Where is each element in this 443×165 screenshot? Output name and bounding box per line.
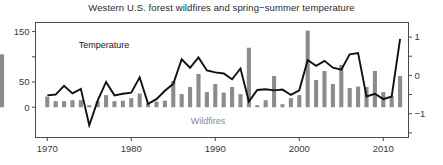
x-tick-label: 1970 <box>37 143 58 154</box>
y-right-tick-label: 1 <box>415 31 420 42</box>
wildfire-bar <box>213 84 217 107</box>
x-tick-label: 2010 <box>373 143 394 154</box>
x-axis: 19701980199020002010 <box>37 138 394 154</box>
wildfire-bar <box>45 97 49 108</box>
wildfire-bar <box>398 76 402 107</box>
plot-area: 050150 −101 19701980199020002010 Tempera… <box>0 0 443 165</box>
y-right-tick-label: −1 <box>415 108 426 119</box>
wildfire-bar <box>180 94 184 107</box>
wildfire-bar <box>196 74 200 107</box>
wildfire-bar <box>297 95 301 107</box>
wildfire-bar <box>138 94 142 108</box>
wildfire-bar <box>314 80 318 107</box>
y-left-tick-label: 150 <box>14 26 30 37</box>
wildfire-bar <box>272 76 276 107</box>
wildfire-bar <box>280 104 284 107</box>
x-tick-label: 2000 <box>289 143 310 154</box>
wildfire-bar <box>373 71 377 107</box>
y-axis-right: −101 <box>409 31 426 132</box>
wildfire-bar <box>222 93 226 108</box>
y-axis-left: 050150 <box>14 26 36 113</box>
wildfire-bar <box>348 88 352 107</box>
wildfire-bar <box>255 105 259 107</box>
wildfire-bar <box>264 100 268 107</box>
wildfire-bar <box>87 105 91 107</box>
wildfire-bar <box>112 101 116 107</box>
temperature-annotation: Temperature <box>79 40 130 50</box>
wildfire-bar <box>54 101 58 107</box>
wildfire-bar <box>79 100 83 107</box>
wildfire-bar <box>230 87 234 107</box>
temperature-line <box>47 39 400 125</box>
y-right-tick-label: 0 <box>415 70 420 81</box>
wildfire-bar <box>356 87 360 108</box>
wildfire-bar <box>289 98 293 107</box>
y-left-tick-label: 50 <box>19 76 30 87</box>
y-left-tick-label: 0 <box>24 102 29 113</box>
wildfires-annotation: Wildfires <box>191 116 226 126</box>
wildfire-bar <box>0 54 4 107</box>
wildfire-bar <box>62 101 66 107</box>
wildfire-bar <box>188 87 192 107</box>
wildfire-bar <box>339 65 343 107</box>
wildfire-bar <box>70 100 74 107</box>
wildfire-bar <box>163 101 167 108</box>
x-tick-label: 1980 <box>121 143 142 154</box>
wildfire-temperature-chart: Western U.S. forest wildfires and spring… <box>0 0 443 165</box>
wildfire-bar <box>154 102 158 108</box>
wildfire-bar <box>306 31 310 108</box>
x-tick-label: 1990 <box>205 143 226 154</box>
wildfire-bar <box>331 84 335 107</box>
wildfire-bar <box>205 92 209 107</box>
wildfire-bar <box>322 71 326 107</box>
wildfire-bar <box>238 94 242 107</box>
wildfire-bar <box>129 98 133 107</box>
wildfire-bar <box>104 95 108 107</box>
wildfire-bar <box>121 101 125 108</box>
